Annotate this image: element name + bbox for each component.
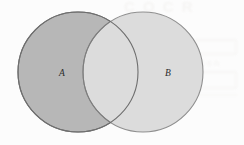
- set-circle-b: [83, 12, 203, 132]
- venn-diagram-canvas: C O C R ion A B: [0, 0, 244, 145]
- set-label-b: B: [165, 68, 171, 78]
- venn-diagram-figure: C O C R ion A B: [0, 0, 244, 145]
- set-label-a: A: [58, 68, 65, 78]
- watermark-right-text: ion: [202, 58, 222, 68]
